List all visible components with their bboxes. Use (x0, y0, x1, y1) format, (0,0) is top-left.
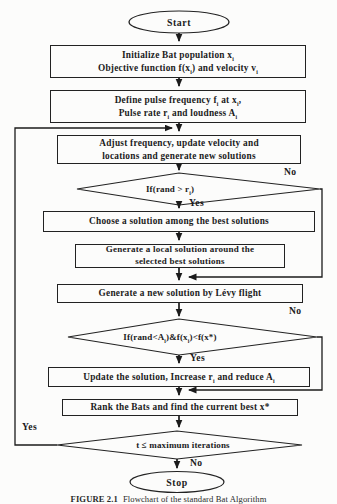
step-adjust-line1: Adjust frequency, update velocity and (99, 137, 259, 149)
step-initialize-population: Initialize Bat population xi Objective f… (50, 45, 306, 78)
step-adjust-frequency: Adjust frequency, update velocity and lo… (57, 135, 301, 164)
step-choose-solution: Choose a solution among the best solutio… (43, 211, 315, 232)
step-adjust-line2: locations and generate new solutions (102, 150, 256, 162)
step-local-solution: Generate a local solution around the sel… (75, 244, 285, 268)
start-terminal-label: Start (167, 17, 191, 28)
no-label-loop: No (190, 457, 203, 468)
step-local-line2: selected best solutions (135, 256, 225, 268)
figure-caption-text: Flowchart of the standard Bat Algorithm (123, 494, 267, 504)
no-label-accept: No (289, 305, 302, 316)
decision-accept-label: If(rand<Ai)&f(xi)<f(x*) (123, 332, 216, 342)
step-initialize-line2: Objective function f(xi) and velocity vi (98, 62, 258, 74)
step-choose-line1: Choose a solution among the best solutio… (89, 215, 269, 227)
figure-caption: FIGURE 2.1Flowchart of the standard Bat … (0, 494, 337, 504)
step-define-line2: Pulse rate ri and loudness Ai (119, 107, 238, 119)
step-define-pulse: Define pulse frequency fi at xi, Pulse r… (50, 90, 306, 123)
decision-loop-label: t ≤ maximum iterations (136, 440, 229, 450)
step-levy-line1: Generate a new solution by Lévy flight (99, 287, 262, 299)
step-local-line1: Generate a local solution around the (106, 244, 255, 256)
step-update-line1: Update the solution, Increase ri and red… (83, 371, 275, 383)
step-update-solution: Update the solution, Increase ri and red… (48, 367, 310, 387)
yes-label-loop: Yes (22, 421, 37, 432)
step-define-line1: Define pulse frequency fi at xi, (115, 94, 242, 106)
decision-pulse-label: If(rand > ri) (146, 184, 194, 194)
step-initialize-line1: Initialize Bat population xi (122, 49, 234, 61)
yes-label-accept: Yes (190, 352, 205, 363)
step-levy-flight: Generate a new solution by Lévy flight (57, 284, 303, 303)
stop-terminal-label: Stop (166, 477, 187, 488)
no-label-pulse: No (284, 166, 297, 177)
step-rank-line1: Rank the Bats and find the current best … (90, 401, 269, 413)
yes-label-pulse: Yes (189, 197, 204, 208)
step-rank-bats: Rank the Bats and find the current best … (62, 399, 298, 416)
figure-caption-number: FIGURE 2.1 (71, 494, 118, 504)
figure-canvas: Start Stop Initialize Bat population xi … (0, 0, 337, 504)
